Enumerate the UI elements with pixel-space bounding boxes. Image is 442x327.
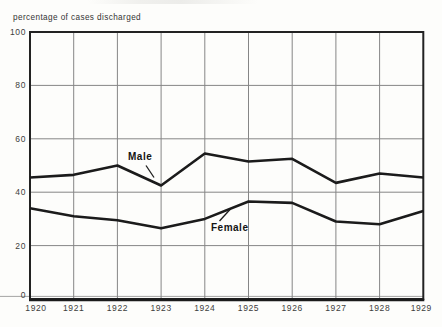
male-series-label: Male <box>128 152 152 162</box>
x-tick-label: 1925 <box>238 303 259 313</box>
x-tick-label: 1923 <box>150 303 171 313</box>
plot-frame <box>30 32 423 299</box>
y-tick-label: 80 <box>15 80 26 90</box>
y-tick-label: 100 <box>10 27 26 37</box>
chart-canvas: 0204060801001920192119221923192419251926… <box>0 0 442 327</box>
scanned-chart-page: percentage of cases discharged 020406080… <box>0 0 442 327</box>
y-tick-label: 40 <box>15 187 26 197</box>
x-tick-label: 1920 <box>25 303 46 313</box>
y-tick-label: 20 <box>15 241 26 251</box>
x-tick-label: 1929 <box>411 303 432 313</box>
series-line-male <box>30 153 423 185</box>
male-label-pointer <box>146 166 154 178</box>
x-tick-label: 1927 <box>325 303 346 313</box>
x-tick-label: 1928 <box>369 303 390 313</box>
x-tick-label: 1922 <box>107 303 128 313</box>
y-tick-label: 60 <box>15 134 26 144</box>
female-series-label: Female <box>211 223 248 233</box>
x-tick-label: 1926 <box>282 303 303 313</box>
x-tick-label: 1921 <box>63 303 84 313</box>
x-tick-label: 1924 <box>194 303 215 313</box>
y-tick-label: 0 <box>21 290 26 300</box>
